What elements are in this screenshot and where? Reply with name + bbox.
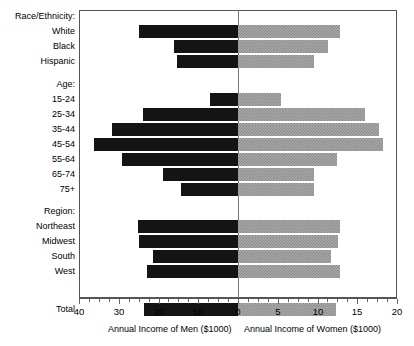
tick-left-minor-17.5	[168, 299, 169, 302]
tick-left-40-label: 40	[59, 306, 99, 317]
bar-men-65-74	[163, 168, 238, 181]
bar-women-hispanic	[238, 55, 314, 68]
bar-row	[0, 108, 414, 121]
tick-right-minor-11.25	[327, 299, 328, 302]
bar-women-55-64	[238, 153, 337, 166]
tick-right-15-label: 15	[337, 306, 377, 317]
bar-men-45-54	[94, 138, 238, 151]
bar-row	[0, 138, 414, 151]
tick-left-minor-35	[99, 299, 100, 302]
bar-women-15-24	[238, 93, 281, 106]
bar-men-15-24	[210, 93, 238, 106]
bar-men-black	[174, 40, 238, 53]
tick-right-5	[278, 299, 279, 304]
tick-right-minor-8.75	[308, 299, 309, 302]
bar-row	[0, 220, 414, 233]
tick-left-20	[159, 299, 160, 304]
bar-women-25-34	[238, 108, 365, 121]
group-heading-age: Age:	[0, 79, 75, 90]
tick-right-5-label: 5	[258, 306, 298, 317]
bar-men-white	[139, 25, 238, 38]
bar-row	[0, 40, 414, 53]
tick-left-minor-27.5	[129, 299, 130, 302]
bar-women-midwest	[238, 235, 338, 248]
tick-left-10	[198, 299, 199, 304]
tick-right-minor-6.25	[288, 299, 289, 302]
bar-men-55-64	[122, 153, 238, 166]
bar-row	[0, 183, 414, 196]
bar-women-white	[238, 25, 340, 38]
tick-left-minor-5	[218, 299, 219, 302]
tick-right-0	[238, 299, 239, 304]
bar-women-south	[238, 250, 331, 263]
bar-women-west	[238, 265, 340, 278]
income-pyramid-chart: Race/Ethnicity:WhiteBlackHispanicAge:15-…	[0, 0, 414, 346]
bar-women-northeast	[238, 220, 340, 233]
tick-right-minor-16.25	[367, 299, 368, 302]
tick-left-30	[119, 299, 120, 304]
tick-left-40	[79, 299, 80, 304]
tick-left-20-label: 20	[139, 306, 179, 317]
bar-row	[0, 123, 414, 136]
tick-right-minor-13.75	[347, 299, 348, 302]
tick-right-minor-12.5	[337, 299, 338, 302]
tick-right-minor-3.75	[268, 299, 269, 302]
group-heading-raceethnicity: Race/Ethnicity:	[0, 11, 75, 22]
x-axis-title-women: Annual Income of Women ($1000)	[244, 324, 381, 334]
tick-left-minor-12.5	[188, 299, 189, 302]
bar-women-black	[238, 40, 328, 53]
x-axis-title-men: Annual Income of Men ($1000)	[108, 324, 232, 334]
tick-right-20-label: 20	[377, 306, 414, 317]
bar-men-west	[147, 265, 238, 278]
bar-row	[0, 250, 414, 263]
tick-left-minor-25	[139, 299, 140, 302]
tick-right-minor-18.75	[387, 299, 388, 302]
tick-right-minor-17.5	[377, 299, 378, 302]
tick-right-minor-2.5	[258, 299, 259, 302]
bar-men-25-34	[143, 108, 238, 121]
tick-left-30-label: 30	[99, 306, 139, 317]
tick-left-minor-7.5	[208, 299, 209, 302]
bar-row	[0, 55, 414, 68]
tick-right-10	[318, 299, 319, 304]
bar-row	[0, 235, 414, 248]
bar-row	[0, 25, 414, 38]
bar-row	[0, 168, 414, 181]
bar-men-south	[153, 250, 238, 263]
bar-row	[0, 265, 414, 278]
group-heading-region: Region:	[0, 206, 75, 217]
tick-left-minor-22.5	[149, 299, 150, 302]
bar-men-northeast	[138, 220, 238, 233]
bar-men-midwest	[139, 235, 238, 248]
tick-right-0-label: 0	[218, 306, 258, 317]
tick-left-minor-2.5	[228, 299, 229, 302]
tick-left-10-label: 10	[178, 306, 218, 317]
tick-right-10-label: 10	[298, 306, 338, 317]
tick-left-minor-15	[178, 299, 179, 302]
tick-left-minor-32.5	[109, 299, 110, 302]
tick-right-minor-1.25	[248, 299, 249, 302]
bar-women-35-44	[238, 123, 379, 136]
tick-right-minor-7.5	[298, 299, 299, 302]
tick-left-minor-37.5	[89, 299, 90, 302]
bar-row	[0, 153, 414, 166]
bar-row	[0, 93, 414, 106]
bar-men-35-44	[112, 123, 238, 136]
bar-men-hispanic	[177, 55, 238, 68]
tick-right-15	[357, 299, 358, 304]
tick-right-20	[397, 299, 398, 304]
bar-men-75-	[181, 183, 238, 196]
bar-women-45-54	[238, 138, 383, 151]
bar-women-75-	[238, 183, 314, 196]
bar-women-65-74	[238, 168, 314, 181]
